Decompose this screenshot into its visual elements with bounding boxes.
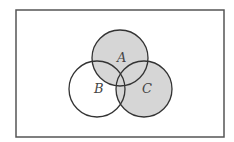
set-label-b: B xyxy=(93,81,104,96)
set-label-a: A xyxy=(116,50,126,65)
venn-diagram: A B C xyxy=(0,0,234,142)
set-label-c: C xyxy=(142,81,152,96)
